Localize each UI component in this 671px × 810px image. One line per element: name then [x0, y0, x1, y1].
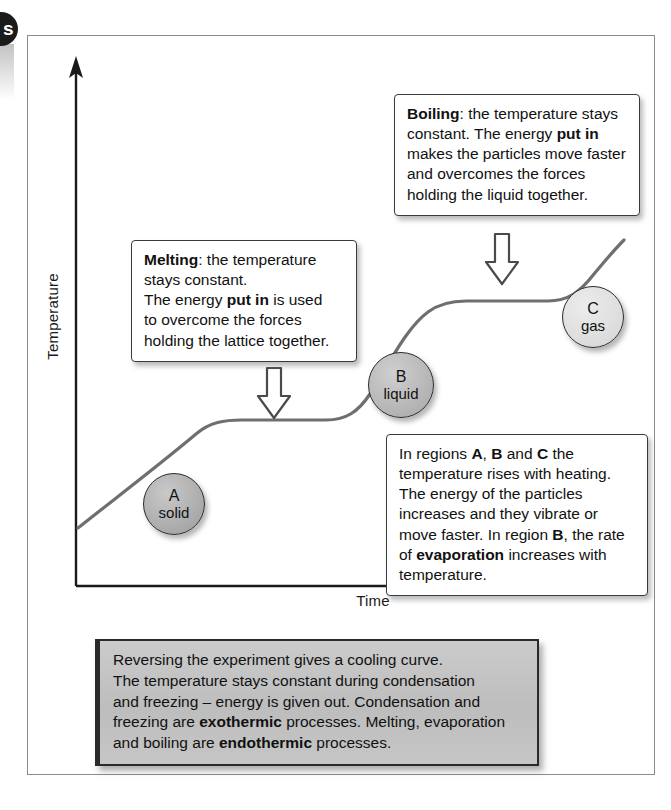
callout-regions-line1c: , — [483, 445, 492, 462]
region-bubble-a: A solid — [143, 473, 205, 535]
callout-boiling-line1: : the temperature stays — [460, 105, 619, 122]
y-axis-label: Temperature — [44, 247, 61, 387]
callout-boiling-line2a: constant. The energy — [407, 125, 557, 142]
callout-boiling-line4: and overcomes the forces — [407, 165, 585, 182]
callout-regions-line3: The energy of the particles — [399, 485, 583, 502]
callout-regions-line1g: the — [548, 445, 574, 462]
cooling-note-line1: Reversing the experiment gives a cooling… — [113, 651, 443, 668]
cooling-note-line5b: endothermic — [219, 734, 312, 751]
callout-melting-line3c: is used — [269, 291, 322, 308]
callout-regions-line1d: B — [491, 445, 502, 462]
cooling-note-line4c: processes. Melting, evaporation — [282, 713, 505, 730]
boiling-pointer-arrow — [484, 232, 520, 288]
callout-regions-line6b: evaporation — [416, 546, 504, 563]
callout-regions-line6c: increases with — [504, 546, 607, 563]
callout-regions-line5a: move faster. In region — [399, 526, 552, 543]
cooling-note-line5a: and boiling are — [113, 734, 219, 751]
callout-boiling-line2b: put in — [557, 125, 599, 142]
callout-regions-line6a: of — [399, 546, 416, 563]
callout-regions: In regions A, B and C the temperature ri… — [386, 434, 648, 596]
callout-melting: Melting: the temperature stays constant.… — [131, 240, 357, 362]
callout-melting-line2: stays constant. — [144, 271, 247, 288]
melting-pointer-arrow — [256, 366, 292, 422]
region-bubble-c-letter: C — [587, 301, 599, 317]
cooling-note-line5c: processes. — [312, 734, 391, 751]
cooling-note-line3: and freezing – energy is given out. Cond… — [113, 693, 480, 710]
page-badge-shadow — [0, 44, 14, 100]
cooling-curve-note: Reversing the experiment gives a cooling… — [95, 639, 539, 766]
region-bubble-a-letter: A — [169, 488, 180, 504]
callout-regions-line1a: In regions — [399, 445, 471, 462]
region-bubble-a-state: solid — [159, 505, 190, 520]
y-axis — [69, 56, 83, 586]
callout-regions-line7: temperature. — [399, 566, 487, 583]
callout-boiling-line3: makes the particles move faster — [407, 145, 626, 162]
callout-boiling-line5: holding the liquid together. — [407, 186, 588, 203]
callout-melting-line1: : the temperature — [198, 251, 316, 268]
callout-regions-line5b: B — [552, 526, 563, 543]
region-bubble-b-state: liquid — [383, 386, 418, 401]
callout-regions-line1e: and — [502, 445, 536, 462]
region-bubble-b-letter: B — [396, 369, 407, 385]
callout-regions-line2: temperature rises with heating. — [399, 465, 611, 482]
callout-boiling-lead: Boiling — [407, 105, 460, 122]
callout-melting-lead: Melting — [144, 251, 198, 268]
callout-melting-line4: to overcome the forces — [144, 311, 302, 328]
callout-melting-line3b: put in — [227, 291, 269, 308]
figure-frame: Temperature Time A solid B liquid C gas … — [27, 35, 655, 775]
callout-boiling: Boiling: the temperature stays constant.… — [394, 94, 640, 216]
cooling-note-line4a: freezing are — [113, 713, 199, 730]
callout-melting-line3a: The energy — [144, 291, 227, 308]
region-bubble-c-state: gas — [581, 318, 605, 333]
page-tab-badge: s — [0, 12, 18, 46]
callout-regions-line4: increases and they vibrate or — [399, 505, 598, 522]
callout-regions-line1f: C — [537, 445, 548, 462]
region-bubble-b: B liquid — [368, 352, 434, 418]
cooling-note-line4b: exothermic — [199, 713, 282, 730]
callout-regions-line5c: , the rate — [564, 526, 625, 543]
callout-regions-line1b: A — [471, 445, 482, 462]
region-bubble-c: C gas — [562, 286, 624, 348]
callout-melting-line5: holding the lattice together. — [144, 332, 329, 349]
cooling-note-line2: The temperature stays constant during co… — [113, 672, 475, 689]
